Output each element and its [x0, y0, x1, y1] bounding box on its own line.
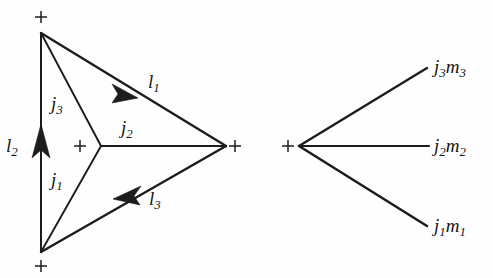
plus-marker-right-vertex — [282, 140, 294, 152]
label-j1: j1 — [51, 170, 63, 193]
label-l1: l1 — [148, 72, 160, 95]
edge-l3-arrowhead — [113, 186, 141, 205]
label-j2: j2 — [121, 118, 133, 141]
right-diagram-group — [282, 68, 429, 226]
leg-j3m3-line — [299, 68, 427, 146]
plus-marker-top-left — [35, 11, 47, 23]
edge-l1-arrowhead — [112, 84, 138, 103]
label-j3m3: j3m3 — [434, 57, 466, 80]
figure-root: j3 j1 j2 l2 l1 l3 j3m3 j2m2 j1m1 — [0, 0, 493, 278]
label-l3: l3 — [149, 189, 161, 212]
diagram-canvas — [0, 0, 493, 278]
leg-j1m1-line — [299, 146, 427, 226]
edge-l1-line — [41, 33, 226, 146]
plus-marker-center — [74, 140, 86, 152]
label-j1m1: j1m1 — [434, 216, 466, 239]
label-l2: l2 — [6, 136, 18, 159]
label-j2m2: j2m2 — [434, 136, 466, 159]
plus-marker-bottom-left — [35, 260, 47, 272]
left-diagram-group — [32, 11, 241, 272]
label-j3: j3 — [51, 94, 63, 117]
plus-marker-right-apex — [229, 140, 241, 152]
